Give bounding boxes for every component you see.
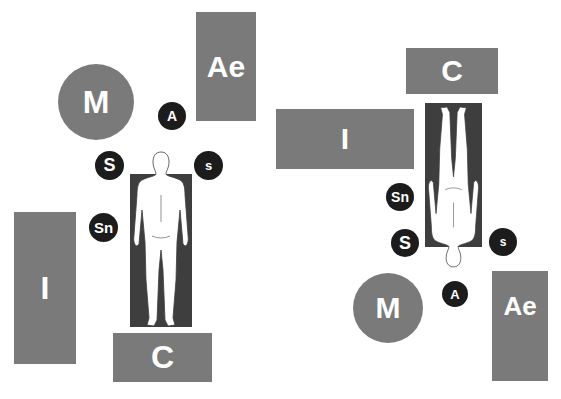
right-ae-box: Ae: [492, 271, 548, 381]
left-i-label: I: [41, 270, 50, 307]
right-m-label: M: [376, 291, 401, 325]
right-s-small-dot: s: [489, 228, 517, 256]
right-i-label: I: [341, 122, 349, 156]
left-m-circle: M: [58, 64, 134, 140]
left-a-label: A: [167, 108, 177, 124]
left-ae-label: Ae: [207, 50, 245, 84]
right-sn-dot: Sn: [386, 183, 414, 211]
left-s-small-dot: s: [194, 151, 223, 180]
left-c-box: C: [113, 333, 212, 382]
right-ae-label: Ae: [503, 291, 536, 322]
left-sn-dot: Sn: [89, 213, 118, 242]
right-s-small-label: s: [500, 235, 507, 249]
right-a-dot: A: [442, 281, 468, 307]
right-s-main-label: S: [399, 233, 411, 254]
right-c-box: C: [406, 48, 498, 94]
left-sn-label: Sn: [94, 219, 113, 236]
left-patient-figure: [130, 150, 192, 330]
left-s-main-label: S: [103, 155, 115, 176]
right-patient-figure: [425, 100, 482, 272]
right-c-label: C: [441, 54, 463, 88]
left-s-main-dot: S: [95, 151, 124, 180]
right-m-circle: M: [353, 273, 423, 343]
left-i-box: I: [14, 212, 76, 364]
right-sn-label: Sn: [391, 189, 409, 205]
right-i-box: I: [276, 109, 414, 169]
left-c-label: C: [151, 339, 174, 376]
right-s-main-dot: S: [391, 229, 419, 257]
right-a-label: A: [450, 287, 459, 302]
left-ae-box: Ae: [196, 12, 256, 121]
left-a-dot: A: [158, 102, 186, 130]
left-m-label: M: [83, 84, 110, 121]
left-s-small-label: s: [205, 158, 212, 173]
